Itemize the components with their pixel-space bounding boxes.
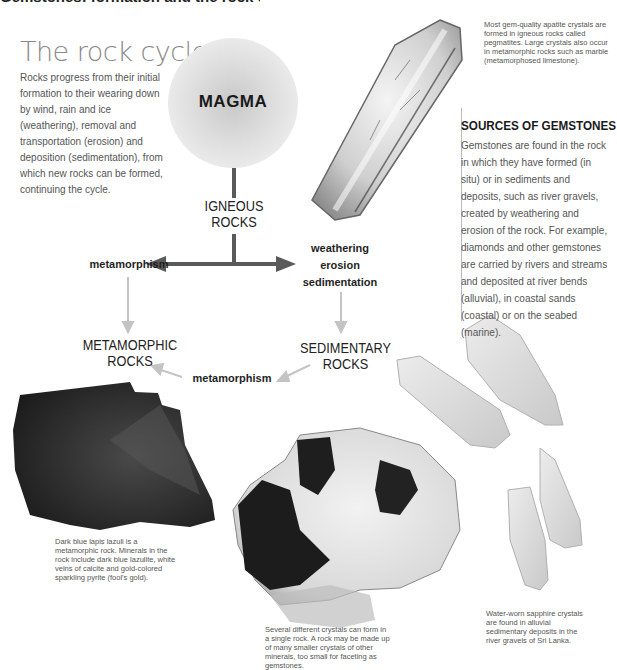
caption-lapis-lazuli: Dark blue lapis lazuli is a metamorphic … bbox=[55, 537, 180, 582]
apatite-crystal-image bbox=[312, 20, 462, 220]
sources-body: Gemstones are found in the rock in which… bbox=[461, 137, 611, 341]
sources-heading: SOURCES OF GEMSTONES bbox=[461, 118, 616, 133]
caption-apatite: Most gem-quality apatite crystals are fo… bbox=[484, 20, 612, 65]
process-metamorphism-top: metamorphism bbox=[84, 256, 174, 273]
arrow-down-icon bbox=[336, 322, 346, 332]
caption-crystals: Several different crystals can form in a… bbox=[265, 625, 390, 670]
magma-label: MAGMA bbox=[168, 92, 298, 112]
node-label-line: ROCKS bbox=[79, 353, 181, 369]
magma-circle: MAGMA bbox=[168, 38, 298, 168]
lapis-lazuli-image bbox=[13, 382, 215, 530]
node-label-line: ROCKS bbox=[192, 214, 277, 230]
metamorphic-rocks-node: METAMORPHIC ROCKS bbox=[79, 337, 181, 369]
node-label-line: IGNEOUS bbox=[192, 198, 277, 214]
sedimentary-rocks-node: SEDIMENTARY ROCKS bbox=[292, 340, 398, 372]
process-metamorphism-bottom: metamorphism bbox=[182, 370, 282, 387]
arrow-right-icon bbox=[276, 256, 296, 272]
arrow-down-icon bbox=[123, 322, 133, 332]
process-line: weathering bbox=[295, 240, 385, 257]
caption-sapphire: Water-worn sapphire crystals are found i… bbox=[486, 609, 586, 645]
process-line: sedimentation bbox=[295, 274, 385, 291]
node-label-line: SEDIMENTARY bbox=[292, 340, 398, 356]
node-label-line: METAMORPHIC bbox=[79, 337, 181, 353]
process-line: erosion bbox=[295, 257, 385, 274]
igneous-rocks-node: IGNEOUS ROCKS bbox=[192, 198, 277, 230]
garnet-matrix-image bbox=[233, 428, 460, 628]
node-label-line: ROCKS bbox=[292, 356, 398, 372]
process-weathering-erosion-sedimentation: weathering erosion sedimentation bbox=[295, 240, 385, 291]
